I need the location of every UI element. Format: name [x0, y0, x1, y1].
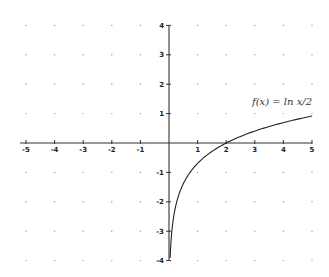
grid-dot — [226, 25, 227, 26]
grid-dot — [311, 231, 312, 232]
grid-dot — [283, 172, 284, 173]
grid-dot — [226, 231, 227, 232]
grid-dot — [54, 84, 55, 85]
y-tick-label: -3 — [156, 228, 164, 236]
grid-dot — [283, 84, 284, 85]
grid-dot — [25, 231, 26, 232]
grid-dot — [54, 260, 55, 261]
grid-dot — [197, 172, 198, 173]
grid-dot — [197, 25, 198, 26]
grid-dot — [311, 260, 312, 261]
grid-dot — [311, 201, 312, 202]
grid-dot — [140, 84, 141, 85]
grid-dot — [311, 84, 312, 85]
function-label: f(x) = ln x/2 — [251, 96, 312, 107]
grid-dot — [83, 172, 84, 173]
grid-dot — [283, 25, 284, 26]
grid-dot — [197, 201, 198, 202]
grid-dot — [283, 113, 284, 114]
grid-dot — [54, 54, 55, 55]
grid-dot — [311, 113, 312, 114]
grid-dot — [283, 231, 284, 232]
x-tick-label: 1 — [195, 146, 200, 154]
grid-dot — [111, 25, 112, 26]
grid-dot — [197, 113, 198, 114]
grid-dot — [197, 84, 198, 85]
grid-dot — [254, 231, 255, 232]
grid-dot — [83, 231, 84, 232]
grid-dot — [140, 172, 141, 173]
y-tick-label: -1 — [156, 169, 164, 177]
grid-dot — [25, 172, 26, 173]
x-tick-label: 5 — [310, 146, 315, 154]
grid-dot — [54, 201, 55, 202]
grid-dot — [111, 260, 112, 261]
grid-dot — [54, 113, 55, 114]
x-tick-label: -4 — [51, 146, 59, 154]
series — [170, 116, 312, 258]
y-tick-label: -4 — [156, 257, 164, 265]
grid-dot — [83, 260, 84, 261]
grid-dot — [25, 113, 26, 114]
grid-dot — [311, 54, 312, 55]
grid-dot — [111, 231, 112, 232]
grid-dot — [254, 113, 255, 114]
grid-dot — [83, 113, 84, 114]
grid-dot — [54, 25, 55, 26]
grid-dot — [283, 54, 284, 55]
grid-dot — [140, 113, 141, 114]
grid-dot — [83, 25, 84, 26]
grid-dot — [283, 260, 284, 261]
grid-dot — [83, 201, 84, 202]
grid-dot — [254, 84, 255, 85]
grid-dot — [254, 201, 255, 202]
y-tick-label: 4 — [159, 22, 164, 30]
annotations: f(x) = ln x/2 — [251, 96, 312, 107]
series-line-ln-x-over-2 — [170, 116, 312, 258]
x-tick-label: -2 — [108, 146, 116, 154]
grid-dot — [254, 172, 255, 173]
grid-dot — [25, 25, 26, 26]
x-tick-label: -1 — [137, 146, 145, 154]
x-tick-label: 3 — [252, 146, 257, 154]
chart: -5-4-3-2-112345-4-3-2-11234 f(x) = ln x/… — [0, 0, 329, 277]
x-tick-label: 2 — [224, 146, 229, 154]
y-tick-label: 1 — [159, 110, 164, 118]
x-tick-label: -5 — [22, 146, 30, 154]
grid-dot — [111, 201, 112, 202]
grid-dot — [25, 260, 26, 261]
y-tick-label: -2 — [156, 198, 164, 206]
grid-dot — [25, 84, 26, 85]
grid-dot — [283, 201, 284, 202]
grid-dot — [226, 172, 227, 173]
grid-dot — [140, 260, 141, 261]
grid-dot — [254, 54, 255, 55]
axes — [20, 25, 312, 260]
grid-dot — [226, 201, 227, 202]
y-tick-label: 2 — [159, 81, 164, 89]
grid-dot — [226, 113, 227, 114]
grid-dot — [140, 201, 141, 202]
grid-dot — [254, 260, 255, 261]
grid-dot — [111, 113, 112, 114]
y-tick-label: 3 — [159, 51, 164, 59]
grid-dot — [311, 25, 312, 26]
grid-dot — [140, 25, 141, 26]
grid-dot — [226, 260, 227, 261]
grid-dot — [83, 54, 84, 55]
grid-dot — [311, 172, 312, 173]
grid-dot — [226, 54, 227, 55]
grid-dot — [254, 25, 255, 26]
grid-dot — [54, 172, 55, 173]
grid-dot — [83, 84, 84, 85]
grid-dot — [140, 231, 141, 232]
grid-dot — [25, 201, 26, 202]
x-tick-label: -3 — [79, 146, 87, 154]
grid-dot — [111, 54, 112, 55]
grid-dot — [226, 84, 227, 85]
grid-dot — [111, 84, 112, 85]
grid-dot — [197, 231, 198, 232]
grid-dot — [54, 231, 55, 232]
grid-dot — [197, 54, 198, 55]
grid-dot — [111, 172, 112, 173]
